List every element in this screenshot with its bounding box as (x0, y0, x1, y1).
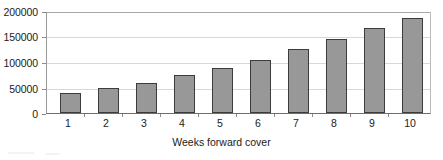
x-tick-label-6: 6 (239, 117, 277, 129)
x-tick-label-3: 3 (125, 117, 163, 129)
x-axis-title: Weeks forward cover (0, 136, 443, 148)
bar-2 (98, 88, 119, 113)
y-tick-mark-0 (42, 114, 46, 115)
y-tick-label-150000: 150000 (0, 32, 38, 42)
x-tick-label-8: 8 (315, 117, 353, 129)
y-tick-label-50000: 50000 (0, 84, 38, 94)
x-tick-label-5: 5 (201, 117, 239, 129)
y-tick-label-200000: 200000 (0, 7, 38, 17)
bar-9 (364, 28, 385, 113)
x-tick-label-9: 9 (353, 117, 391, 129)
y-tick-label-100000: 100000 (0, 58, 38, 68)
bar-6 (250, 60, 271, 113)
scan-artifact (8, 152, 34, 154)
bar-3 (136, 83, 157, 113)
bar-4 (174, 75, 195, 113)
x-tick-label-2: 2 (87, 117, 125, 129)
bar-8 (326, 39, 347, 113)
plot-area (46, 12, 431, 114)
bar-5 (212, 68, 233, 113)
y-tick-label-0: 0 (0, 109, 38, 119)
x-tick-label-7: 7 (277, 117, 315, 129)
x-axis-labels: 1 2 3 4 5 6 7 8 9 10 (46, 117, 431, 133)
x-tick-label-1: 1 (49, 117, 87, 129)
x-tick-label-10: 10 (391, 117, 429, 129)
bar-1 (60, 93, 81, 113)
x-tick-label-4: 4 (163, 117, 201, 129)
bar-chart: 200000 150000 100000 50000 0 (0, 0, 443, 160)
bars-layer (47, 13, 430, 113)
scan-artifact (46, 153, 60, 155)
bar-7 (288, 49, 309, 113)
bar-10 (402, 18, 423, 113)
